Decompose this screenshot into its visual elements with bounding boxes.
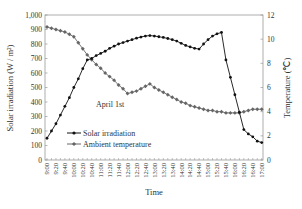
data-point-solar — [162, 36, 165, 39]
y-left-tick-label: 800 — [31, 40, 43, 49]
data-point-solar — [99, 52, 102, 55]
data-point-temperature — [206, 108, 210, 112]
data-point-solar — [175, 40, 178, 43]
data-point-solar — [81, 67, 84, 70]
data-point-solar — [46, 137, 49, 140]
x-tick-label: 12:00 — [124, 163, 131, 178]
legend-marker-diamond-icon — [72, 142, 76, 146]
x-tick-label: 12:20 — [133, 163, 140, 178]
data-point-temperature — [58, 29, 62, 33]
data-point-solar — [117, 43, 120, 46]
x-tick-label: 10:40 — [88, 163, 95, 178]
data-point-solar — [251, 135, 254, 138]
x-tick-label: 11:00 — [97, 163, 104, 178]
data-point-solar — [122, 41, 125, 44]
data-point-solar — [50, 130, 53, 133]
data-point-temperature — [130, 90, 134, 94]
x-tick-label: 13:20 — [160, 163, 167, 178]
x-tick-label: 11:40 — [115, 163, 122, 178]
y-right-tick-label: 0 — [267, 156, 271, 165]
y-right-tick-label: 6 — [267, 83, 271, 92]
data-point-temperature — [255, 107, 259, 111]
y-left-tick-label: 0 — [38, 156, 42, 165]
data-point-solar — [242, 128, 245, 131]
data-point-solar — [113, 45, 116, 48]
x-tick-label: 14:20 — [186, 163, 193, 178]
data-point-temperature — [184, 101, 188, 105]
data-point-temperature — [233, 111, 237, 115]
data-point-solar — [77, 77, 80, 80]
data-point-solar — [135, 37, 138, 40]
data-point-temperature — [134, 89, 138, 93]
series-ambient-temperature — [45, 25, 264, 115]
x-tick-label: 10:00 — [70, 163, 77, 178]
data-point-solar — [247, 133, 250, 136]
y-right-tick-label: 10 — [267, 35, 275, 44]
data-point-temperature — [54, 28, 58, 32]
data-point-solar — [207, 38, 210, 41]
x-tick-label: 10:20 — [79, 163, 86, 178]
x-axis-label: Time — [145, 187, 163, 197]
data-point-solar — [238, 111, 241, 114]
data-point-solar — [193, 47, 196, 50]
data-point-solar — [55, 122, 58, 125]
y-left-tick-label: 700 — [31, 54, 43, 63]
data-point-solar — [171, 38, 174, 41]
y-left-tick-label: 600 — [31, 69, 43, 78]
x-tick-label: 14:00 — [178, 163, 185, 178]
x-tick-label: 13:40 — [169, 163, 176, 178]
x-axis-ticks: 9:009:209:4010:0010:2010:4011:0011:2011:… — [43, 158, 265, 178]
dual-axis-line-chart: 01002003004005006007008009001,000 024681… — [0, 0, 302, 209]
x-tick-label: 12:40 — [142, 163, 149, 178]
data-point-temperature — [45, 25, 49, 29]
x-tick-label: 9:20 — [52, 163, 59, 175]
data-point-temperature — [215, 110, 219, 114]
data-point-solar — [202, 43, 205, 46]
data-point-temperature — [157, 88, 161, 92]
data-point-temperature — [193, 105, 197, 109]
data-point-temperature — [219, 110, 223, 114]
data-point-solar — [86, 59, 89, 62]
data-point-solar — [220, 31, 223, 34]
x-tick-label: 17:00 — [258, 163, 265, 178]
legend: Solar irradiation Ambient temperature — [67, 129, 152, 149]
y-axis-left-ticks: 01002003004005006007008009001,000 — [25, 11, 47, 165]
data-point-solar — [216, 32, 219, 35]
y-left-tick-label: 400 — [31, 98, 43, 107]
data-point-solar — [166, 37, 169, 40]
y-left-tick-label: 900 — [31, 25, 43, 34]
data-point-temperature — [63, 30, 67, 34]
data-point-temperature — [228, 111, 232, 115]
x-tick-label: 15:40 — [222, 163, 229, 178]
legend-item-solar: Solar irradiation — [67, 129, 135, 138]
data-point-solar — [140, 36, 143, 39]
y-left-tick-label: 1,000 — [25, 11, 42, 20]
data-point-solar — [189, 46, 192, 49]
y-left-tick-label: 100 — [31, 141, 43, 150]
data-point-solar — [225, 59, 228, 62]
data-point-solar — [72, 86, 75, 89]
data-point-solar — [95, 54, 98, 57]
data-point-temperature — [202, 107, 206, 111]
x-tick-label: 13:00 — [151, 163, 158, 178]
y-right-tick-label: 12 — [267, 11, 275, 20]
data-point-solar — [211, 35, 214, 38]
y-axis-right-label: Temperature (℃) — [282, 58, 292, 119]
data-point-temperature — [246, 108, 250, 112]
x-tick-label: 15:20 — [213, 163, 220, 178]
y-left-tick-label: 300 — [31, 112, 43, 121]
data-point-temperature — [161, 90, 165, 94]
data-point-solar — [108, 47, 111, 50]
data-point-solar — [126, 40, 129, 43]
x-tick-label: 15:00 — [204, 163, 211, 178]
data-point-solar — [260, 141, 263, 144]
y-right-tick-label: 8 — [267, 59, 271, 68]
data-point-temperature — [224, 111, 228, 115]
data-point-temperature — [242, 110, 246, 114]
data-point-solar — [184, 44, 187, 47]
data-point-solar — [198, 48, 201, 51]
data-point-temperature — [143, 84, 147, 88]
data-point-solar — [153, 35, 156, 38]
data-point-temperature — [197, 106, 201, 110]
data-point-temperature — [166, 93, 170, 97]
